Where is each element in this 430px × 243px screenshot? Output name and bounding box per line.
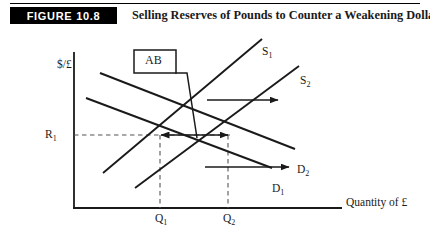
quantity-q2-subscript: 2 xyxy=(231,218,235,227)
demand-d2-label: D2 xyxy=(297,164,309,176)
header-divider xyxy=(10,3,420,4)
price-r1-label: R1 xyxy=(45,129,57,141)
supply-s2-label: S2 xyxy=(300,75,310,87)
quantity-q1-subscript: 1 xyxy=(163,218,167,227)
figure-caption: Selling Reserves of Pounds to Counter a … xyxy=(132,7,422,24)
x-axis-label: Quantity of £ xyxy=(346,197,407,209)
supply-curve-s2 xyxy=(135,66,299,188)
price-r1-subscript: 1 xyxy=(53,134,57,143)
quantity-q2-label: Q2 xyxy=(223,213,235,225)
supply-s1-label: S1 xyxy=(262,46,272,58)
demand-d1-label: D1 xyxy=(272,183,284,195)
chart-plot-area: $/£ R1 Q1 Q2 S1 S2 D2 D1 Quantity of £ A… xyxy=(0,26,430,243)
ab-callout-label: AB xyxy=(145,54,162,66)
supply-s1-subscript: 1 xyxy=(268,51,272,60)
demand-d1-subscript: 1 xyxy=(280,188,284,197)
y-axis-label: $/£ xyxy=(57,59,72,71)
figure-root: FIGURE 10.8 Selling Reserves of Pounds t… xyxy=(0,0,430,243)
figure-number-badge: FIGURE 10.8 xyxy=(10,7,117,24)
supply-s2-subscript: 2 xyxy=(306,80,310,89)
demand-d2-subscript: 2 xyxy=(305,169,309,178)
quantity-q1-label: Q1 xyxy=(155,213,167,225)
price-r1-letter: R xyxy=(45,128,53,140)
